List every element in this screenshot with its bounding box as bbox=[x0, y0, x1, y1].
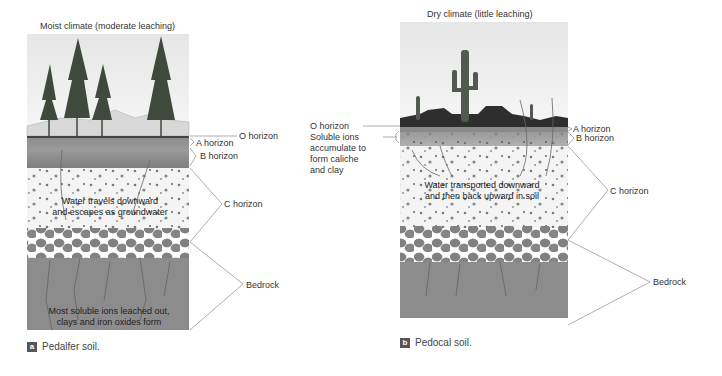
panel-a-title: Moist climate (moderate leaching) bbox=[40, 21, 175, 31]
caption-badge-b: b bbox=[400, 338, 410, 348]
panel-b-caption: b Pedocal soil. bbox=[400, 337, 472, 348]
panel-a-graphic bbox=[27, 34, 243, 330]
soluble-ions-line-4: and clay bbox=[310, 165, 366, 176]
caption-badge-a: a bbox=[27, 342, 37, 352]
panel-a-a-horizon-label: A horizon bbox=[196, 138, 234, 148]
panel-a-ions-text: Most soluble ions leached out, clays and… bbox=[44, 306, 174, 328]
ions-text-line-1: Most soluble ions leached out, bbox=[44, 306, 174, 317]
panel-a-water-text: Water travels downward and escapes as gr… bbox=[50, 196, 170, 218]
ions-text-line-2: clays and iron oxides form bbox=[44, 317, 174, 328]
soluble-ions-line-3: form caliche bbox=[310, 154, 366, 165]
panel-a-b-horizon-label: B horizon bbox=[200, 151, 238, 161]
panel-b-water-text: Water transported downward and then back… bbox=[412, 180, 552, 202]
water-text-line-2: and escapes as groundwater bbox=[50, 207, 170, 218]
panel-b-soluble-ions-label: Soluble ions accumulate to form caliche … bbox=[310, 132, 366, 176]
panel-b-c-horizon-label: C horizon bbox=[610, 186, 649, 196]
soluble-ions-line-2: accumulate to bbox=[310, 143, 366, 154]
water-text-line-1: Water travels downward bbox=[50, 196, 170, 207]
panel-b-bedrock-label: Bedrock bbox=[653, 277, 686, 287]
soluble-ions-line-1: Soluble ions bbox=[310, 132, 366, 143]
caption-text-a: Pedalfer soil. bbox=[42, 341, 100, 352]
water-transport-line-1: Water transported downward bbox=[412, 180, 552, 191]
panel-b-title: Dry climate (little leaching) bbox=[427, 9, 533, 19]
caption-text-b: Pedocal soil. bbox=[415, 337, 472, 348]
panel-a-caption: a Pedalfer soil. bbox=[27, 341, 100, 352]
panel-b-graphic bbox=[363, 22, 650, 325]
panel-a-bedrock-label: Bedrock bbox=[246, 280, 279, 290]
panel-b-b-horizon-label: B horizon bbox=[576, 133, 614, 143]
panel-b-o-horizon-label: O horizon bbox=[310, 121, 349, 131]
panel-a-c-horizon-label: C horizon bbox=[224, 199, 263, 209]
water-transport-line-2: and then back upward in soil bbox=[412, 191, 552, 202]
panel-a-o-horizon-label: O horizon bbox=[239, 131, 278, 141]
